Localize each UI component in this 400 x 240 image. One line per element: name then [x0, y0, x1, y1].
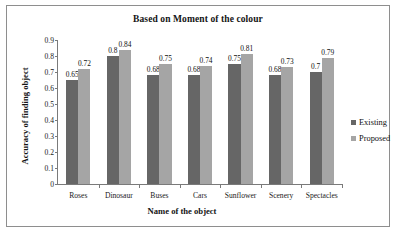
x-tick-mark [99, 184, 100, 188]
bar-value-label: 0.7 [311, 62, 320, 71]
x-tick-mark [301, 184, 302, 188]
x-tick-label: Cars [193, 191, 207, 200]
bar-proposed-cars[interactable] [200, 66, 212, 184]
bar-value-label: 0.68 [187, 65, 200, 74]
bar-value-label: 0.75 [228, 54, 241, 63]
bar-proposed-dinosaur[interactable] [119, 50, 131, 184]
x-tick-label: Roses [69, 191, 87, 200]
bar-value-label: 0.81 [240, 44, 253, 53]
chart-figure: Based on Moment of the colour Accuracy o… [6, 5, 390, 227]
legend-swatch-icon [351, 120, 356, 125]
bar-value-label: 0.75 [159, 54, 172, 63]
bar-proposed-sunflower[interactable] [241, 54, 253, 184]
legend-label: Existing [359, 118, 387, 127]
legend-item-proposed[interactable]: Proposed [351, 134, 390, 143]
bar-value-label: 0.73 [281, 57, 294, 66]
y-axis-title: Accuracy of finding object [20, 46, 30, 186]
x-tick-label: Scenery [269, 191, 293, 200]
bar-existing-cars[interactable] [188, 75, 200, 184]
bar-group: 0.680.74 [180, 40, 221, 184]
x-tick-mark [220, 184, 221, 188]
bar-group: 0.70.79 [301, 40, 342, 184]
x-tick-label: Buses [150, 191, 168, 200]
chart-title: Based on Moment of the colour [7, 14, 389, 24]
bar-group: 0.650.72 [58, 40, 99, 184]
bar-proposed-scenery[interactable] [281, 67, 293, 184]
bar-value-label: 0.74 [200, 56, 213, 65]
bar-value-label: 0.68 [147, 65, 160, 74]
bar-value-label: 0.79 [321, 48, 334, 57]
x-tick-mark [180, 184, 181, 188]
bar-group: 0.680.73 [261, 40, 302, 184]
legend-item-existing[interactable]: Existing [351, 118, 390, 127]
bar-group: 0.80.84 [99, 40, 140, 184]
bar-existing-scenery[interactable] [269, 75, 281, 184]
x-tick-label: Dinosaur [105, 191, 133, 200]
bar-proposed-spectacles[interactable] [322, 58, 334, 184]
bar-group: 0.680.75 [139, 40, 180, 184]
x-tick-mark [342, 184, 343, 188]
x-tick-label: Sunflower [225, 191, 257, 200]
bar-value-label: 0.8 [108, 46, 117, 55]
bar-value-label: 0.72 [78, 59, 91, 68]
bar-proposed-buses[interactable] [159, 64, 171, 184]
bar-value-label: 0.84 [118, 40, 131, 49]
bar-value-label: 0.68 [269, 65, 282, 74]
bar-existing-dinosaur[interactable] [107, 56, 119, 184]
x-tick-mark [261, 184, 262, 188]
legend-swatch-icon [351, 136, 356, 141]
y-tick-mark [55, 184, 58, 185]
bar-existing-buses[interactable] [147, 75, 159, 184]
legend-label: Proposed [359, 134, 390, 143]
x-tick-label: Spectacles [306, 191, 338, 200]
bar-proposed-roses[interactable] [78, 69, 90, 184]
bar-existing-roses[interactable] [66, 80, 78, 184]
chart-legend: ExistingProposed [351, 118, 390, 150]
bar-value-label: 0.65 [66, 70, 79, 79]
bar-existing-sunflower[interactable] [228, 64, 240, 184]
bar-group: 0.750.81 [220, 40, 261, 184]
bar-existing-spectacles[interactable] [310, 72, 322, 184]
x-tick-mark [139, 184, 140, 188]
x-axis-title: Name of the object [47, 206, 317, 216]
plot-area: 00.10.20.30.40.50.60.70.80.9 0.650.720.8… [57, 40, 342, 185]
bars-layer: 0.650.720.80.840.680.750.680.740.750.810… [58, 40, 342, 184]
